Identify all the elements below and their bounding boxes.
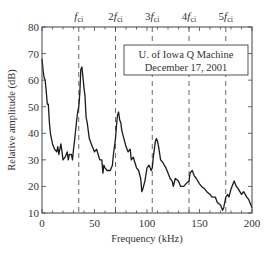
y-tick-label: 70 xyxy=(28,48,40,60)
harmonic-label: 4fci xyxy=(182,10,197,24)
x-tick-label: 50 xyxy=(89,217,101,229)
x-axis-title: Frequency (kHz) xyxy=(111,233,183,245)
y-tick-labels: 1020304050607080 xyxy=(28,21,40,219)
x-tick-labels: 050100150200 xyxy=(39,217,261,229)
y-tick-label: 30 xyxy=(28,154,40,166)
harmonic-label: fci xyxy=(74,10,84,24)
x-tick-label: 200 xyxy=(244,217,261,229)
y-tick-label: 40 xyxy=(28,127,40,139)
y-tick-label: 60 xyxy=(28,74,40,86)
y-tick-label: 50 xyxy=(28,101,40,113)
spectrum-line xyxy=(42,59,252,210)
harmonic-label: 2fci xyxy=(108,10,123,24)
spectrum-chart: fci2fci3fci4fci5fci 1020304050607080 050… xyxy=(0,0,267,255)
y-tick-label: 80 xyxy=(28,21,40,33)
x-tick-label: 100 xyxy=(139,217,156,229)
x-tick-label: 0 xyxy=(39,217,45,229)
y-tick-label: 20 xyxy=(28,180,40,192)
harmonic-label: 5fci xyxy=(219,10,234,24)
harmonic-label: 3fci xyxy=(145,10,160,24)
harmonic-labels: fci2fci3fci4fci5fci xyxy=(74,10,233,24)
y-tick-label: 10 xyxy=(28,207,40,219)
annotation-line-1: U. of Iowa Q Machine xyxy=(139,49,234,60)
y-axis-title: Relative amplitude (dB) xyxy=(6,69,18,171)
x-tick-label: 150 xyxy=(191,217,208,229)
annotation-line-2: December 17, 2001 xyxy=(145,62,228,73)
